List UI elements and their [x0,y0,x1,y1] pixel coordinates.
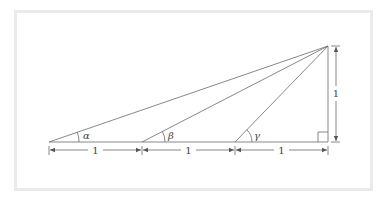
arc-gamma [247,130,252,142]
diagram-canvas: 1 1 1 1 α β γ [0,0,391,201]
angle-label-beta: β [167,130,174,141]
angle-label-gamma: γ [254,130,260,141]
angle-label-alpha: α [83,130,90,141]
line-gamma [235,46,328,142]
line-beta [142,46,328,142]
arc-alpha [77,132,79,142]
dim-label-seg3: 1 [278,145,284,156]
arc-beta [162,131,165,142]
dim-label-seg1: 1 [92,145,98,156]
line-alpha [49,46,328,142]
dim-label-seg2: 1 [185,145,191,156]
right-angle-marker [318,132,328,142]
dim-label-height: 1 [333,88,339,99]
frame-border [16,12,372,190]
triangle-diagram: 1 1 1 1 α β γ [0,0,391,201]
